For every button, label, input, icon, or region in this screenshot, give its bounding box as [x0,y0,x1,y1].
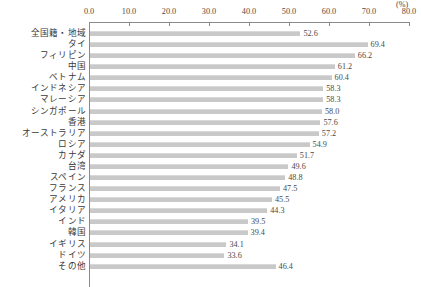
bar-value-label: 52.6 [303,28,317,39]
bar-value-label: 58.0 [325,106,339,117]
bar-value-label: 51.7 [300,150,314,161]
bar-row: 中国61.2 [0,61,421,72]
bar-value-label: 39.5 [251,216,265,227]
bar-row: シンガポール58.0 [0,106,421,117]
bar [90,109,322,114]
bar-category-label: インドネシア [31,83,86,94]
bar [90,208,267,213]
bar [90,164,288,169]
bar-value-label: 57.2 [322,128,336,139]
bar-value-label: 58.3 [326,94,340,105]
bar [90,219,248,224]
bar-value-label: 54.9 [313,139,327,150]
bar-row: ベトナム60.4 [0,72,421,83]
bar-category-label: マレーシア [40,94,86,105]
bar-value-label: 66.2 [358,50,372,61]
bar-category-label: ドイツ [58,250,86,261]
bar-category-label: ベトナム [49,72,86,83]
bar-category-label: 香港 [68,117,86,128]
horizontal-bar-chart: 0.010.020.030.040.050.060.070.080.0 (%) … [0,0,421,287]
bar-row: マレーシア58.3 [0,94,421,105]
x-axis-tickmark [169,22,170,26]
bar-category-label: イギリス [49,239,86,250]
bar [90,97,323,102]
bar-row: 韓国39.4 [0,227,421,238]
bar [90,86,323,91]
x-axis-tickmark [289,22,290,26]
bar-row: 台湾49.6 [0,161,421,172]
x-axis-tickmark [329,22,330,26]
bar [90,242,226,247]
bar-row: ドイツ33.6 [0,250,421,261]
bar-row: カナダ51.7 [0,150,421,161]
bar-row: インドネシア58.3 [0,83,421,94]
bar-value-label: 34.1 [229,239,243,250]
bar-row: イタリア44.3 [0,205,421,216]
bar [90,120,320,125]
bar-value-label: 57.6 [323,117,337,128]
bar [90,131,319,136]
bar-value-label: 61.2 [338,61,352,72]
bar-row: タイ69.4 [0,39,421,50]
bar-category-label: スペイン [50,172,86,183]
bar [90,153,297,158]
bar [90,31,300,36]
bar-category-label: タイ [68,39,86,50]
bar-value-label: 49.6 [291,161,305,172]
bar-value-label: 33.6 [227,250,241,261]
bar-category-label: 全国籍・地域 [31,28,86,39]
bar [90,64,335,69]
bar-row: インド39.5 [0,216,421,227]
bar [90,186,280,191]
bar-category-label: その他 [58,261,86,272]
bar [90,230,248,235]
bar-category-label: ロシア [58,139,86,150]
bar-row: スペイン48.8 [0,172,421,183]
bar [90,197,272,202]
bar [90,253,224,258]
bar-value-label: 47.5 [283,183,297,194]
x-axis-tickmark [369,22,370,26]
bar-value-label: 48.8 [288,172,302,183]
bar-row: オーストラリア57.2 [0,128,421,139]
bar-category-label: フランス [49,183,86,194]
bar-rows: 全国籍・地域52.6タイ69.4フィリピン66.2中国61.2ベトナム60.4イ… [0,0,421,287]
bar [90,142,310,147]
x-axis-tickmark [209,22,210,26]
bar-row: その他46.4 [0,261,421,272]
bar-category-label: 韓国 [68,227,86,238]
bar [90,42,368,47]
bar-value-label: 69.4 [371,39,385,50]
bar-category-label: 中国 [68,61,86,72]
bar-value-label: 44.3 [270,205,284,216]
bar-row: フィリピン66.2 [0,50,421,61]
bar-category-label: シンガポール [31,106,86,117]
bar-value-label: 46.4 [279,261,293,272]
bar-row: 全国籍・地域52.6 [0,28,421,39]
bar-row: フランス47.5 [0,183,421,194]
bar [90,175,285,180]
bar-category-label: カナダ [58,150,86,161]
bar-row: 香港57.6 [0,117,421,128]
x-axis-tickmark [249,22,250,26]
bar-value-label: 60.4 [335,72,349,83]
bar [90,75,332,80]
bar-row: ロシア54.9 [0,139,421,150]
bar [90,53,355,58]
bar-category-label: フィリピン [40,50,86,61]
bar-value-label: 58.3 [326,83,340,94]
bar [90,264,276,269]
x-axis-tickmark [409,22,410,26]
bar-value-label: 39.4 [251,227,265,238]
bar-category-label: アメリカ [49,194,86,205]
bar-category-label: オーストラリア [22,128,86,139]
bar-category-label: 台湾 [68,161,86,172]
bar-value-label: 45.5 [275,194,289,205]
bar-category-label: イタリア [49,205,86,216]
bar-row: アメリカ45.5 [0,194,421,205]
bar-category-label: インド [58,216,86,227]
bar-row: イギリス34.1 [0,239,421,250]
x-axis-tickmark [129,22,130,26]
plot-area: 0.010.020.030.040.050.060.070.080.0 (%) … [0,0,421,287]
